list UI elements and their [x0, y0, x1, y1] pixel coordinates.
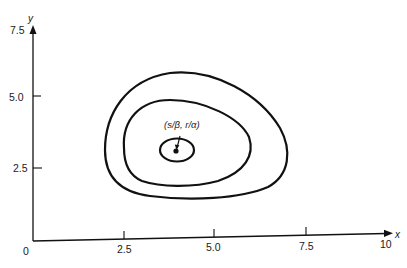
x-tick-label-2.5: 2.5 [117, 243, 132, 255]
x-tick-label-7.5: 7.5 [299, 240, 314, 252]
axes [33, 32, 386, 241]
equilibrium-point [173, 148, 178, 153]
outer-orbit [105, 72, 287, 198]
x-axis-line [33, 234, 386, 242]
y-tick-label-7.5: 7.5 [10, 24, 25, 36]
x-tick-label-5.0: 5.0 [206, 241, 221, 253]
x-axis-name: x [394, 229, 401, 240]
y-ticks [33, 96, 42, 168]
y-tick-label-2.5: 2.5 [13, 162, 28, 174]
phase-plane-diagram: 7.5 5.0 2.5 y 0 2.5 5.0 7.5 10 x (s/β, r… [0, 0, 407, 268]
y-axis-arrow-icon [30, 25, 37, 34]
orbits [105, 72, 287, 198]
x-axis-arrow-icon [384, 230, 393, 237]
equilibrium-label: (s/β, r/α) [164, 119, 200, 130]
y-axis-name: y [27, 13, 34, 24]
y-tick-label-5.0: 5.0 [9, 91, 24, 103]
x-tick-label-10: 10 [380, 238, 392, 250]
middle-orbit [124, 100, 251, 186]
origin-label: 0 [23, 245, 29, 257]
